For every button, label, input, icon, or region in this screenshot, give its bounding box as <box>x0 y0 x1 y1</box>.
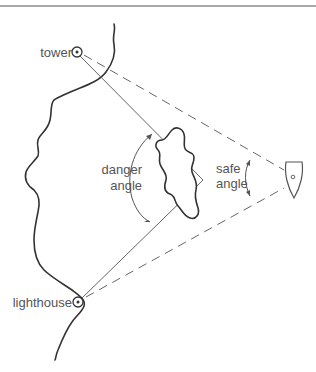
safe-angle-label-line2: angle <box>216 176 248 191</box>
lighthouse-marker-icon <box>73 297 83 307</box>
rock-hazard <box>156 128 199 218</box>
tower-label: tower <box>40 45 72 60</box>
boat-icon <box>285 162 302 198</box>
danger-angle-diagram: tower lighthouse danger angle safe angle <box>0 0 316 372</box>
safe-angle-label-line1: safe <box>216 161 241 176</box>
danger-angle-label-line2: angle <box>110 178 142 193</box>
tower-marker-icon <box>72 47 82 57</box>
danger-angle-label-line1: danger <box>102 162 143 177</box>
lighthouse-label: lighthouse <box>13 295 72 310</box>
